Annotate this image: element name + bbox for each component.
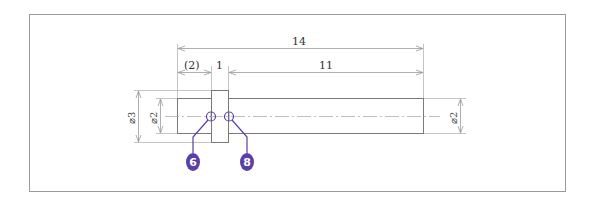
drawing-canvas: 14 (2) 1 11 ⌀3 ⌀2 ⌀2: [0, 0, 592, 204]
dim-left-reference: (2): [184, 59, 200, 72]
leader-line-6: [193, 120, 208, 153]
leader-line-8: [232, 120, 247, 153]
dim-right-diameter: ⌀2: [448, 112, 459, 124]
technical-drawing: 14 (2) 1 11 ⌀3 ⌀2 ⌀2: [0, 0, 592, 204]
dim-overall-length: 14: [292, 35, 306, 48]
dim-collar-width: 1: [216, 59, 223, 72]
balloon-6: 6: [186, 153, 200, 171]
balloon-6-label: 6: [189, 156, 197, 169]
balloon-8: 8: [240, 153, 254, 171]
dim-collar-diameter: ⌀3: [126, 112, 137, 124]
balloon-8-label: 8: [243, 156, 251, 169]
right-shaft: [229, 99, 424, 134]
dim-left-diameter: ⌀2: [148, 112, 159, 124]
dim-right-length: 11: [319, 59, 333, 72]
